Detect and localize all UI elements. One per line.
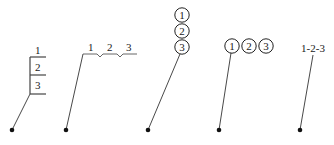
figure-horizontal-underline: 1 2 3 <box>64 41 137 132</box>
leader-line <box>148 54 180 130</box>
leader-dot <box>217 128 222 133</box>
callout-label: 1 <box>35 44 41 56</box>
leader-line <box>219 53 231 130</box>
callout-label: 3 <box>126 41 132 53</box>
leader-line <box>12 94 30 130</box>
leader-callout-diagram: 1 2 3 1 2 3 1 2 3 1 2 3 1-2-3 <box>0 0 334 145</box>
callout-label: 2 <box>107 41 113 53</box>
callout-label: 1 <box>229 40 235 52</box>
callout-label: 3 <box>179 41 185 53</box>
figure-horizontal-circles: 1 2 3 <box>217 39 273 133</box>
figure-stacked-table: 1 2 3 <box>10 44 46 132</box>
leader-dot <box>298 128 303 133</box>
callout-label: 3 <box>35 79 41 91</box>
callout-label: 2 <box>179 25 185 37</box>
callout-label: 1-2-3 <box>301 42 325 54</box>
leader-dot <box>10 128 15 133</box>
leader-line <box>300 55 313 130</box>
callout-label: 1 <box>179 9 185 21</box>
leader-dot <box>146 128 151 133</box>
callout-label: 2 <box>35 61 41 73</box>
figure-dash-text: 1-2-3 <box>298 42 326 132</box>
leader-dot <box>64 128 69 133</box>
underline-with-notches <box>83 54 137 57</box>
leader-line <box>66 54 83 130</box>
figure-vertical-circles: 1 2 3 <box>146 8 190 133</box>
callout-label: 1 <box>88 41 94 53</box>
callout-label: 3 <box>263 40 269 52</box>
callout-label: 2 <box>246 40 252 52</box>
